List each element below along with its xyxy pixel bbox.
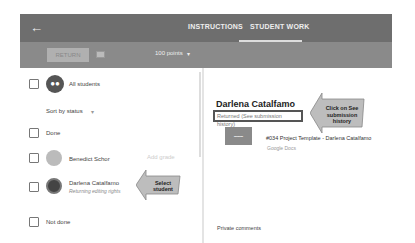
all-students-label: All students bbox=[69, 81, 100, 87]
panel-divider bbox=[202, 68, 204, 243]
tab-instructions[interactable]: INSTRUCTIONS bbox=[188, 23, 243, 30]
points-dropdown[interactable]: 100 points bbox=[155, 50, 183, 56]
top-app-bar: ← INSTRUCTIONS STUDENT WORK bbox=[20, 14, 392, 42]
student-checkbox[interactable] bbox=[29, 182, 39, 192]
arrow-left-icon[interactable]: ← bbox=[30, 20, 43, 35]
submission-history-link[interactable]: Returned (See submission history) bbox=[213, 110, 303, 122]
private-comments-label: Private comments bbox=[217, 225, 261, 231]
attachment-title[interactable]: #034 Project Template - Darlena Catalfam… bbox=[266, 135, 371, 141]
avatar bbox=[46, 150, 62, 166]
chevron-down-icon[interactable]: ▾ bbox=[91, 108, 94, 115]
student-name[interactable]: Darlena Catalfamo bbox=[69, 180, 119, 186]
group-label-not-done: Not done bbox=[46, 219, 70, 225]
all-students-checkbox[interactable] bbox=[29, 79, 39, 89]
done-checkbox[interactable] bbox=[29, 128, 39, 138]
student-checkbox[interactable] bbox=[29, 153, 39, 163]
mail-icon[interactable] bbox=[96, 51, 105, 58]
sidebar-scrollbar[interactable] bbox=[199, 72, 201, 157]
chevron-down-icon[interactable]: ▾ bbox=[187, 50, 190, 57]
avatar bbox=[46, 178, 62, 194]
student-name[interactable]: Benedict Schor bbox=[69, 156, 110, 162]
student-name-heading: Darlena Catalfamo bbox=[216, 99, 295, 109]
student-status: Returning editing rights bbox=[69, 188, 120, 194]
document-thumbnail[interactable]: ▬▬▬ bbox=[225, 127, 252, 145]
tab-student-work[interactable]: STUDENT WORK bbox=[250, 23, 310, 30]
not-done-checkbox[interactable] bbox=[29, 217, 39, 227]
callout-select-student: Select student bbox=[150, 180, 176, 192]
sort-dropdown[interactable]: Sort by status bbox=[46, 108, 83, 114]
attachment-type: Google Docs bbox=[267, 145, 296, 151]
add-grade-input[interactable]: Add grade bbox=[147, 154, 175, 160]
group-label-done: Done bbox=[46, 130, 60, 136]
group-icon: ●● bbox=[46, 75, 64, 93]
toolbar: RETURN 100 points ▾ bbox=[20, 42, 392, 68]
callout-see-history: Click on See submission history bbox=[322, 105, 362, 125]
return-button[interactable]: RETURN bbox=[47, 48, 89, 62]
